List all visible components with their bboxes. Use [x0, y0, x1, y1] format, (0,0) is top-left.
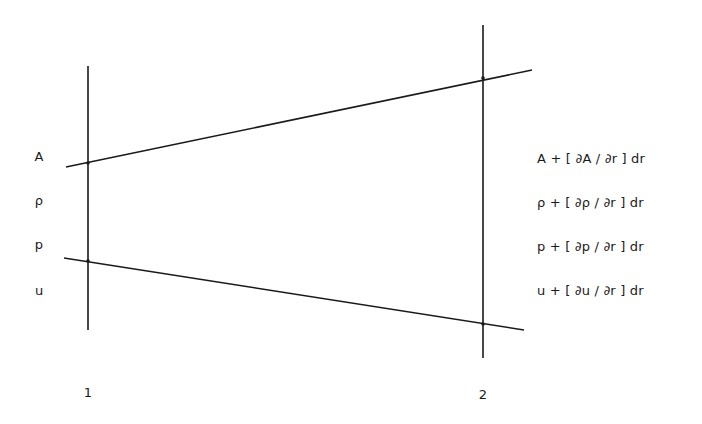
- station-1-label: 1: [80, 385, 96, 401]
- expression-area: A + [ ∂A / ∂r ] dr: [537, 151, 645, 167]
- upper-boundary-line: [66, 70, 532, 167]
- variable-label-density: ρ: [32, 193, 46, 209]
- intersection-dot: [481, 76, 485, 80]
- expression-velocity: u + [ ∂u / ∂r ] dr: [537, 283, 644, 299]
- variable-label-velocity: u: [32, 283, 46, 299]
- lower-boundary-line: [64, 258, 524, 330]
- intersection-dot: [86, 161, 90, 165]
- expression-pressure: p + [ ∂p / ∂r ] dr: [537, 239, 644, 255]
- station-2-label: 2: [475, 387, 491, 403]
- control-volume-diagram: [0, 0, 702, 424]
- intersection-dot: [86, 259, 90, 263]
- variable-label-area: A: [32, 149, 46, 165]
- expression-density: ρ + [ ∂ρ / ∂r ] dr: [537, 195, 644, 211]
- intersection-dot: [481, 322, 485, 326]
- variable-label-pressure: p: [32, 237, 46, 253]
